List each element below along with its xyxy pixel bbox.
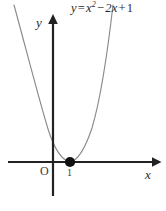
equation-lhs: y — [71, 1, 77, 15]
equation-term3: 1 — [127, 1, 133, 15]
equation-minus-sign: − — [96, 1, 105, 15]
x-axis-label: x — [145, 168, 151, 181]
graph-canvas — [0, 0, 166, 211]
vertex-point-marker — [65, 157, 75, 167]
equation-label: y=x2−2x+1 — [71, 2, 133, 15]
equation-plus-sign: + — [117, 1, 126, 15]
y-axis-arrowhead — [48, 14, 58, 24]
equation-equals: = — [77, 1, 86, 15]
x-tick-label-1: 1 — [67, 168, 72, 178]
origin-label: O — [40, 165, 49, 177]
equation-term2: 2x — [105, 1, 117, 15]
y-axis-label: y — [36, 16, 42, 29]
parabola-figure: y=x2−2x+1 y x O 1 — [0, 0, 166, 211]
parabola-curve — [14, 5, 113, 162]
x-axis-arrowhead — [152, 157, 162, 166]
